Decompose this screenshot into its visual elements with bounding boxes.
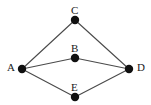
graph-edge-a-c [22, 20, 75, 69]
graph-node-b [71, 54, 79, 62]
graph-edge-a-b [22, 58, 75, 69]
graph-node-c [71, 16, 79, 24]
graph-node-e [71, 93, 79, 101]
graph-edge-a-e [22, 69, 75, 97]
node-label-d: D [137, 62, 145, 73]
graph-diagram: ABCDE [0, 0, 151, 105]
node-label-e: E [71, 82, 78, 93]
graph-edge-b-d [75, 58, 129, 69]
node-label-a: A [7, 62, 15, 73]
graph-edge-e-d [75, 69, 129, 97]
graph-node-a [18, 65, 26, 73]
node-label-c: C [71, 5, 78, 16]
node-label-b: B [71, 43, 78, 54]
graph-edge-c-d [75, 20, 129, 69]
graph-node-d [125, 65, 133, 73]
